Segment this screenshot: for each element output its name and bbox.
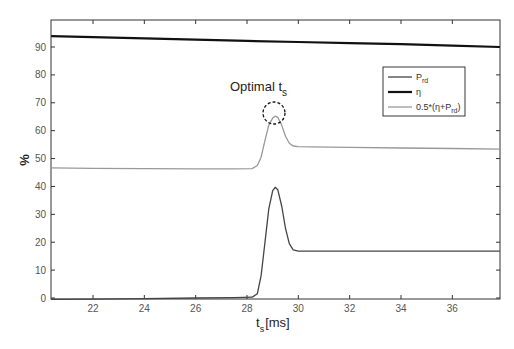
x-tick-label: 36 bbox=[447, 303, 459, 314]
y-tick-label: 20 bbox=[35, 237, 47, 248]
x-tick-label: 34 bbox=[395, 303, 407, 314]
legend-label: η bbox=[416, 87, 421, 97]
y-tick-label: 30 bbox=[35, 209, 47, 220]
x-tick-label: 26 bbox=[190, 303, 202, 314]
annotation-text: Optimal t bbox=[230, 79, 282, 94]
y-axis-label: % bbox=[17, 154, 32, 166]
chart: 2224262830323436 0102030405060708090 Opt… bbox=[0, 0, 514, 349]
legend: Prdη0.5*(η+Prd) bbox=[383, 67, 465, 116]
x-tick-label: 28 bbox=[241, 303, 253, 314]
x-axis-label-unit: [ms] bbox=[265, 315, 290, 330]
y-tick-label: 70 bbox=[35, 97, 47, 108]
y-tick-label: 40 bbox=[35, 181, 47, 192]
x-axis-label-sub: s bbox=[260, 324, 265, 334]
x-tick-label: 24 bbox=[139, 303, 151, 314]
x-tick-label: 32 bbox=[344, 303, 356, 314]
y-tick-label: 60 bbox=[35, 125, 47, 136]
plot-frame bbox=[51, 20, 500, 299]
annotation-subscript: s bbox=[282, 87, 287, 98]
x-tick-label: 22 bbox=[87, 303, 99, 314]
y-tick-label: 10 bbox=[35, 265, 47, 276]
x-axis-label: ts[ms] bbox=[256, 315, 290, 334]
plot-area bbox=[51, 20, 500, 299]
y-tick-label: 50 bbox=[35, 153, 47, 164]
y-tick-label: 90 bbox=[35, 42, 47, 53]
y-tick-label: 0 bbox=[40, 293, 46, 304]
y-tick-label: 80 bbox=[35, 69, 47, 80]
x-tick-label: 30 bbox=[293, 303, 305, 314]
